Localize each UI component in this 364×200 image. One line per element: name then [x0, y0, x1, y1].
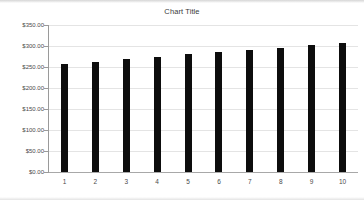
bar [277, 48, 284, 172]
y-axis-tick [44, 67, 48, 68]
bar [92, 62, 99, 172]
bar [154, 57, 161, 172]
x-axis-tick-label: 7 [240, 178, 260, 186]
y-axis-tick [44, 109, 48, 110]
x-axis-tick-label: 5 [178, 178, 198, 186]
chart-container: Chart Title $0.00$50.00$100.00$150.00$20… [0, 0, 364, 200]
y-axis-labels: $0.00$50.00$100.00$150.00$200.00$250.00$… [0, 0, 44, 200]
x-axis-tick-label: 4 [147, 178, 167, 186]
bottom-edge-artifact [0, 197, 364, 200]
x-axis-tick-label: 9 [302, 178, 322, 186]
x-axis-tick-label: 10 [333, 178, 353, 186]
y-axis-tick [44, 130, 48, 131]
x-axis-tick-label: 3 [116, 178, 136, 186]
y-axis-tick-label: $300.00 [0, 43, 44, 49]
gridline [49, 25, 358, 26]
bar [215, 52, 222, 172]
y-axis-tick [44, 172, 48, 173]
y-axis-tick [44, 25, 48, 26]
chart-title: Chart Title [0, 7, 364, 16]
bar [246, 50, 253, 172]
axis-baseline [49, 172, 358, 173]
y-axis-tick-label: $0.00 [0, 169, 44, 175]
bar [339, 43, 346, 172]
bar [185, 54, 192, 172]
x-axis-tick-label: 6 [209, 178, 229, 186]
top-edge-artifact [0, 0, 364, 3]
y-axis-tick-label: $350.00 [0, 22, 44, 28]
y-axis-tick-label: $250.00 [0, 64, 44, 70]
x-axis-tick-label: 8 [271, 178, 291, 186]
y-axis-tick [44, 46, 48, 47]
x-axis-tick-label: 2 [85, 178, 105, 186]
y-axis-tick-label: $150.00 [0, 106, 44, 112]
y-axis-tick [44, 88, 48, 89]
bar [308, 45, 315, 172]
bar [61, 64, 68, 172]
y-axis-tick-label: $50.00 [0, 148, 44, 154]
x-axis-tick-label: 1 [54, 178, 74, 186]
plot-area [49, 25, 358, 172]
y-axis-tick [44, 151, 48, 152]
y-axis-tick-label: $200.00 [0, 85, 44, 91]
bar [123, 59, 130, 172]
y-axis-tick-label: $100.00 [0, 127, 44, 133]
